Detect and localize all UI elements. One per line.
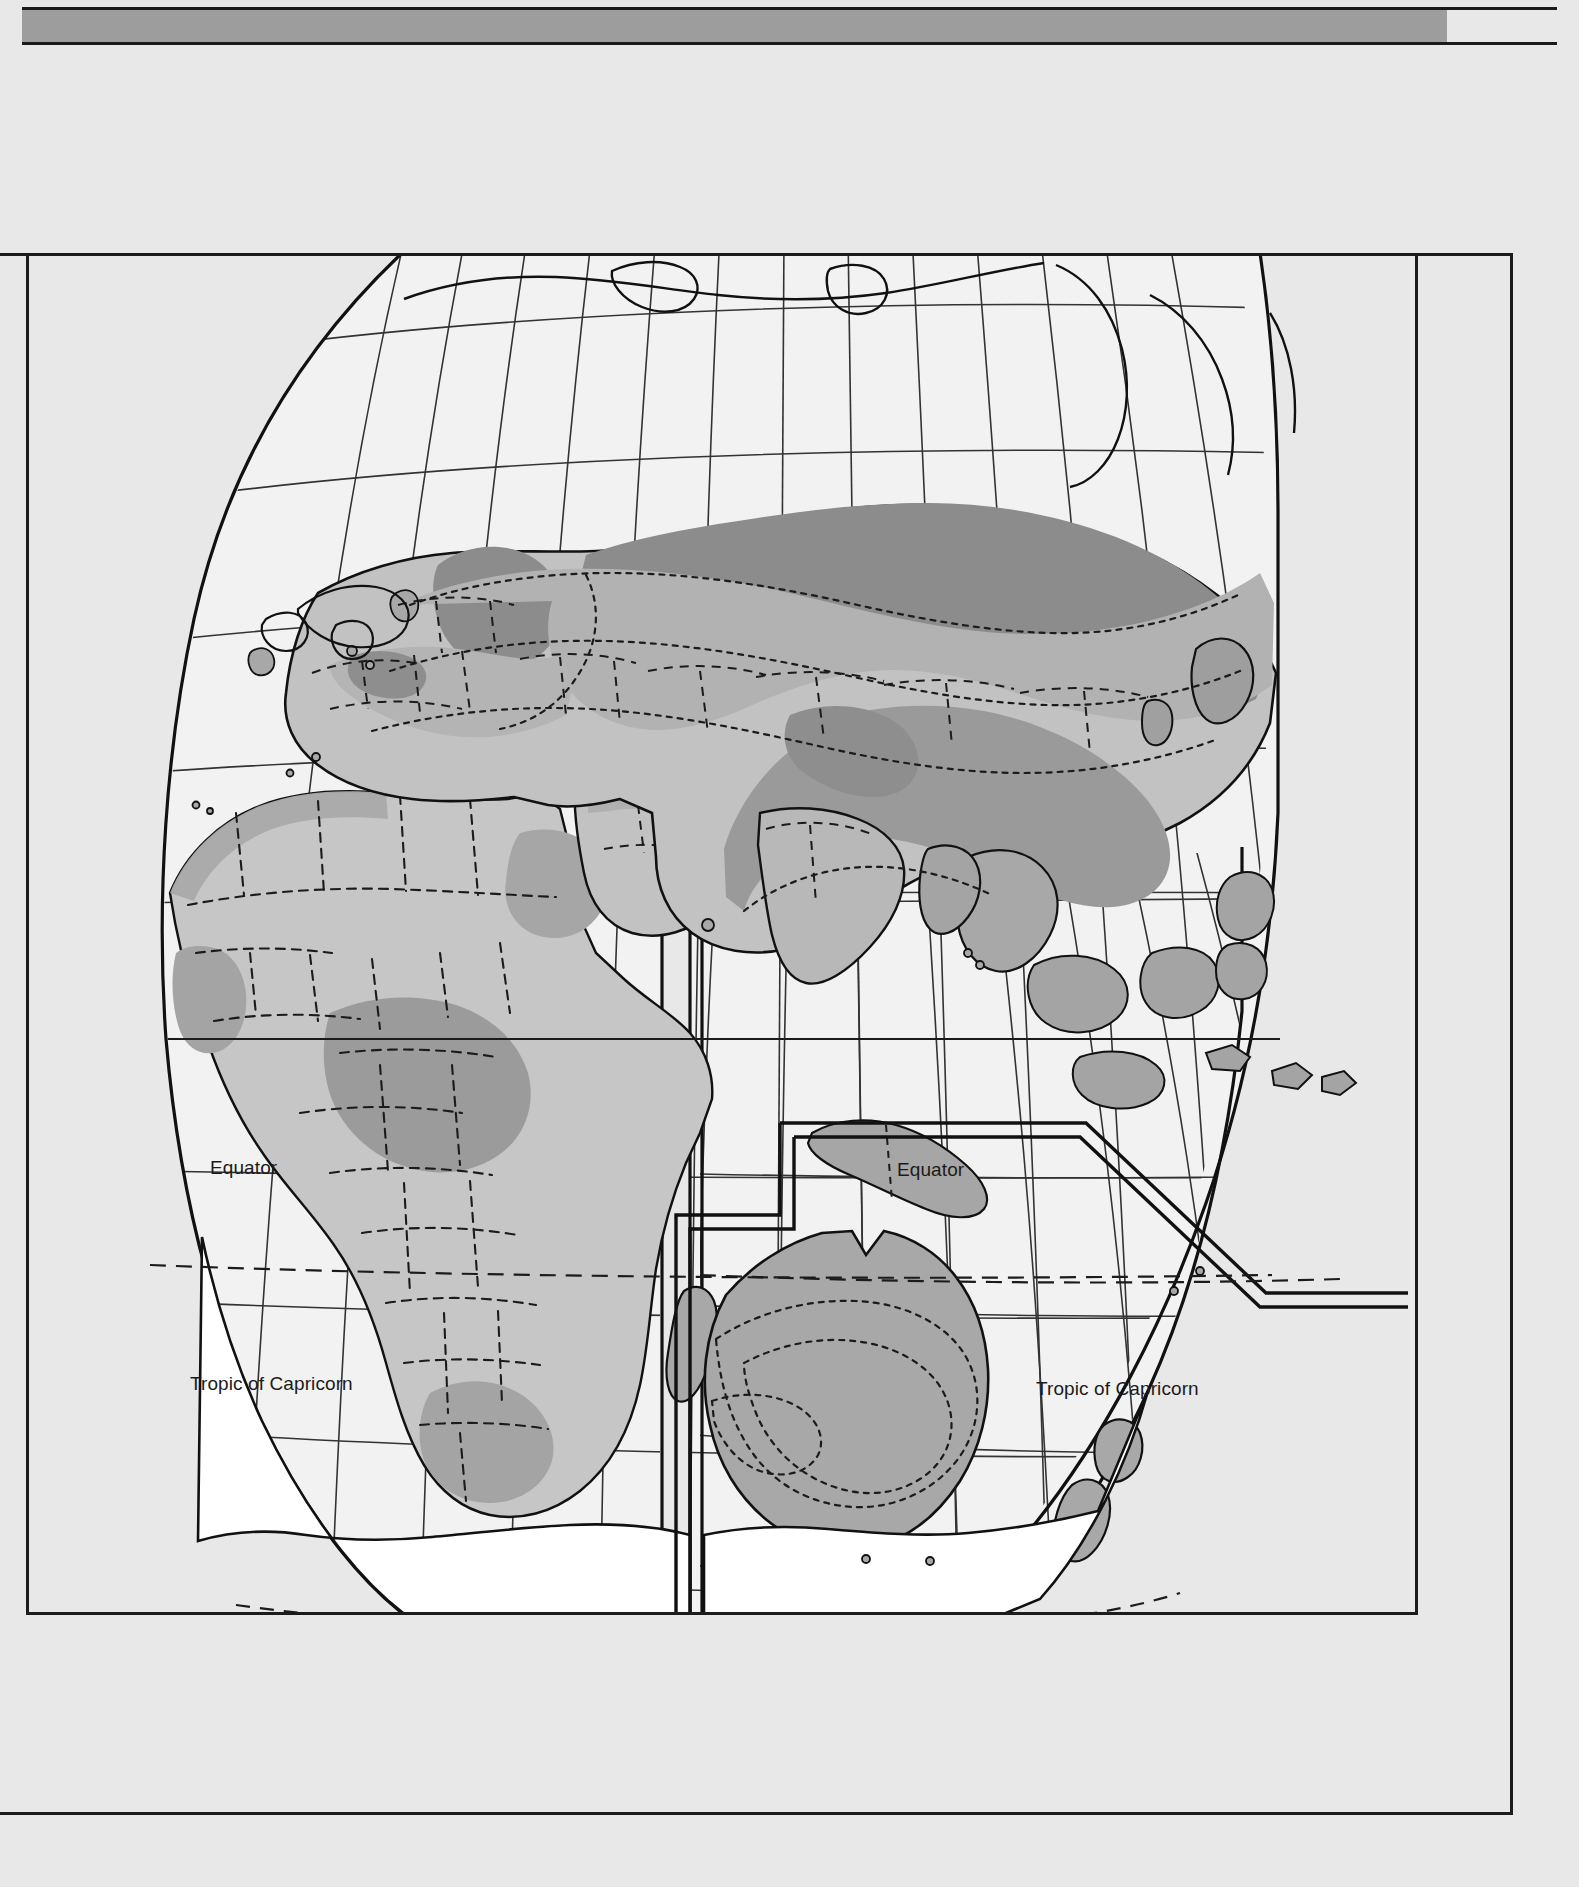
graticule-label-equator-left: Equator xyxy=(210,1157,277,1179)
graticule-label-capricorn-right: Tropic of Capricorn xyxy=(1036,1378,1199,1400)
graticule-label-capricorn-left: Tropic of Capricorn xyxy=(190,1373,353,1395)
banner-right-notch xyxy=(1447,10,1557,42)
top-banner xyxy=(22,7,1557,45)
map-frame: Equator Tropic of Capricorn Polar Circle… xyxy=(26,253,1418,1615)
page-canvas: Equator Tropic of Capricorn Polar Circle… xyxy=(0,0,1579,1887)
graticule-label-equator-right: Equator xyxy=(897,1159,964,1181)
landmass-korea xyxy=(1142,700,1172,745)
world-distribution-map xyxy=(26,253,1418,1615)
